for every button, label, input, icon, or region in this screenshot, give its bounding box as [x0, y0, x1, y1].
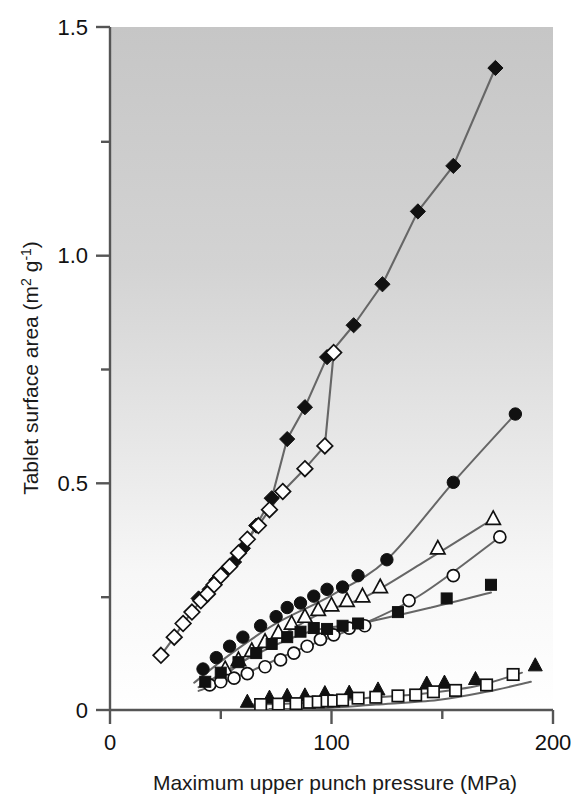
marker-open-square — [337, 694, 348, 705]
marker-open-square — [273, 698, 284, 709]
marker-open-circle — [228, 672, 240, 684]
marker-filled-circle — [381, 554, 393, 566]
x-tick-label: 0 — [104, 730, 116, 755]
marker-filled-square — [392, 607, 403, 618]
marker-filled-circle — [447, 476, 459, 488]
marker-filled-circle — [237, 631, 249, 643]
marker-filled-square — [308, 623, 319, 634]
y-axis-title-main: Tablet surface area (m — [19, 286, 42, 495]
y-tick-label: 1.0 — [57, 243, 88, 268]
y-tick-label: 1.5 — [57, 15, 88, 40]
marker-open-square — [450, 685, 461, 696]
y-axis-tick-labels: 1.5 1.0 0.5 0 — [57, 15, 88, 723]
x-tick-label: 200 — [535, 730, 572, 755]
marker-open-square — [352, 692, 363, 703]
marker-filled-square — [266, 638, 277, 649]
marker-open-circle — [241, 668, 253, 680]
marker-filled-square — [322, 623, 333, 634]
marker-filled-square — [233, 657, 244, 668]
marker-filled-circle — [352, 569, 364, 581]
marker-filled-circle — [270, 610, 282, 622]
marker-open-square — [290, 698, 301, 709]
marker-open-square — [507, 669, 518, 680]
marker-open-circle — [275, 654, 287, 666]
marker-open-square — [481, 679, 492, 690]
marker-filled-circle — [254, 620, 266, 632]
marker-filled-circle — [281, 601, 293, 613]
y-axis-ticks — [96, 27, 110, 710]
x-axis-title: Maximum upper punch pressure (MPa) — [153, 771, 517, 794]
figure-container: 1.5 1.0 0.5 0 0 100 200 Maximum upper pu… — [0, 0, 587, 807]
marker-filled-circle — [210, 651, 222, 663]
marker-filled-square — [282, 632, 293, 643]
y-axis-title-end: ) — [19, 241, 42, 248]
marker-open-square — [410, 689, 421, 700]
marker-open-square — [255, 699, 266, 710]
marker-open-circle — [447, 570, 459, 582]
y-axis-title: Tablet surface area (m2 g-1) — [18, 241, 42, 495]
marker-open-circle — [259, 661, 271, 673]
marker-filled-square — [200, 676, 211, 687]
svg-text:Tablet surface area (m2 g-1): Tablet surface area (m2 g-1) — [18, 241, 42, 495]
y-axis-title-sup-mass: -1 — [18, 248, 34, 261]
y-axis-title-mid: g — [19, 261, 42, 279]
y-tick-label: 0.5 — [57, 471, 88, 496]
x-tick-label: 100 — [313, 730, 350, 755]
marker-open-circle — [314, 633, 326, 645]
marker-filled-circle — [197, 663, 209, 675]
marker-open-circle — [301, 640, 313, 652]
x-axis-tick-labels: 0 100 200 — [104, 730, 571, 755]
marker-open-square — [428, 686, 439, 697]
chart-svg: 1.5 1.0 0.5 0 0 100 200 Maximum upper pu… — [0, 0, 587, 807]
x-axis-ticks — [110, 710, 553, 724]
y-axis-title-sup-area: 2 — [18, 278, 34, 286]
marker-filled-square — [337, 620, 348, 631]
marker-filled-square — [251, 648, 262, 659]
marker-filled-square — [353, 618, 364, 629]
marker-open-circle — [494, 531, 506, 543]
marker-filled-square — [441, 593, 452, 604]
marker-open-square — [370, 692, 381, 703]
marker-filled-square — [295, 626, 306, 637]
marker-filled-square — [485, 579, 496, 590]
marker-open-circle — [403, 595, 415, 607]
marker-filled-circle — [321, 583, 333, 595]
marker-open-square — [392, 690, 403, 701]
y-tick-label: 0 — [76, 698, 88, 723]
marker-filled-square — [215, 667, 226, 678]
marker-filled-circle — [223, 640, 235, 652]
marker-open-circle — [288, 647, 300, 659]
marker-filled-circle — [509, 408, 521, 420]
